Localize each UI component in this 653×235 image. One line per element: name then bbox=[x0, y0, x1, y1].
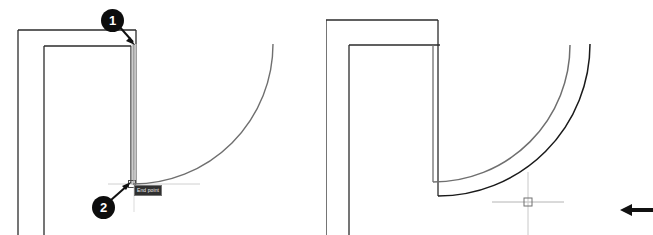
panel-specify-new-length: Specify new length 36 bbox=[326, 0, 653, 235]
door-swing-arc-lengthened bbox=[438, 44, 590, 196]
door-swing-arc bbox=[133, 44, 273, 184]
right-drawing bbox=[326, 0, 653, 235]
arrow-right-icon bbox=[620, 204, 653, 216]
left-drawing bbox=[0, 0, 326, 235]
panel-select-arc-endpoint: 1 2 End point bbox=[0, 0, 326, 235]
illustration-canvas: 1 2 End point bbox=[0, 0, 653, 235]
osnap-endpoint-tooltip: End point bbox=[134, 185, 162, 196]
callout-badge-1: 1 bbox=[101, 9, 124, 32]
door-swing-arc-original bbox=[433, 45, 570, 182]
callout-badge-2: 2 bbox=[92, 196, 115, 219]
callout-leader-2 bbox=[111, 182, 131, 200]
